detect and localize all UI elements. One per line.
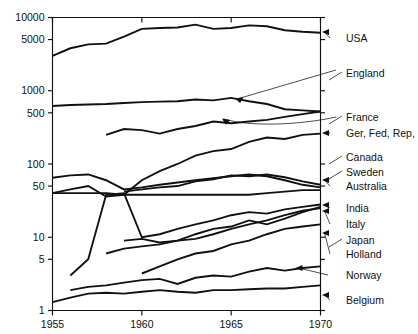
series-label-norway: Norway: [346, 269, 382, 281]
label-leader-line: [299, 268, 329, 275]
y-axis-ticks: [48, 18, 325, 311]
series-label-ger-fed-rep: Ger, Fed, Rep,: [346, 127, 415, 139]
label-leader: [329, 171, 342, 179]
label-leader: [329, 156, 342, 164]
england-leader: [237, 70, 336, 99]
label-arrowhead: [322, 202, 329, 208]
y-tick-label: 5: [39, 253, 45, 265]
y-tick-label: 10000: [15, 11, 44, 23]
label-leader: [329, 239, 342, 247]
y-tick-label: 5000: [21, 33, 45, 45]
series-label-holland: Holland: [346, 248, 382, 260]
series-label-australia: Australia: [346, 180, 387, 192]
series-line-england: [53, 98, 321, 112]
series-label-canada: Canada: [346, 151, 383, 163]
series-label-sweden: Sweden: [346, 166, 384, 178]
x-tick-label: 1970: [309, 318, 333, 330]
series-label-england: England: [346, 67, 385, 79]
series-line-italy: [124, 207, 321, 243]
y-tick-label: 500: [27, 107, 45, 119]
series-line-usa: [53, 25, 321, 56]
y-axis-tick-labels: 1000050001000500100501051: [15, 11, 44, 316]
label-arrowhead: [322, 130, 329, 136]
series-label-usa: USA: [346, 32, 368, 44]
label-arrowhead: [322, 230, 329, 236]
x-tick-label: 1965: [219, 318, 243, 330]
x-tick-label: 1960: [130, 318, 154, 330]
series-label-france: France: [346, 111, 379, 123]
data-series-lines: [53, 25, 321, 303]
series-line-ger-fed-rep: [53, 134, 321, 197]
y-tick-label: 50: [33, 180, 45, 192]
y-tick-label: 100: [27, 158, 45, 170]
series-line-australia: [53, 190, 321, 195]
label-arrow-stem: [325, 233, 331, 254]
label-arrowhead: [322, 292, 329, 298]
y-tick-label: 10: [33, 231, 45, 243]
y-tick-label: 1: [39, 304, 45, 316]
label-arrowhead: [322, 177, 329, 183]
series-label-italy: Italy: [346, 218, 366, 230]
plot-frame: [53, 18, 321, 311]
series-label-india: India: [346, 202, 369, 214]
series-label-belgium: Belgium: [346, 294, 384, 306]
chart-figure: 1000050001000500100501051 19551960196519…: [0, 0, 418, 334]
x-axis-tick-labels: 1955196019651970: [41, 318, 333, 330]
series-line-norway: [70, 266, 320, 290]
series-line-belgium: [53, 285, 321, 302]
series-label-japan: Japan: [346, 234, 375, 246]
label-arrowhead: [296, 265, 303, 271]
label-arrowhead: [322, 29, 329, 35]
y-tick-label: 1000: [21, 84, 45, 96]
series-labels: USAEnglandFranceGer, Fed, Rep,CanadaSwed…: [346, 32, 415, 306]
chart-axes: [53, 18, 321, 311]
label-leader: [329, 72, 342, 80]
log-line-chart: 1000050001000500100501051 19551960196519…: [0, 0, 418, 334]
x-tick-label: 1955: [41, 318, 65, 330]
